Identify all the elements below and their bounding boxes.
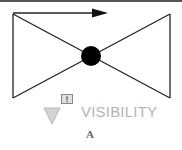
right-arrow-icon: [13, 9, 108, 18]
visibility-label: VISIBILITY: [81, 104, 157, 120]
down-triangle-icon: [44, 108, 60, 124]
valve-hub-circle: [81, 46, 101, 66]
exclamation-box-icon: [62, 95, 73, 104]
figure-letter: A: [86, 128, 94, 140]
